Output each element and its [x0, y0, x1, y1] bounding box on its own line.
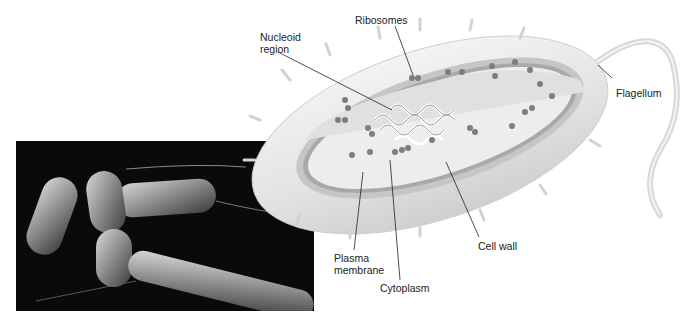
cell-illustration — [0, 0, 694, 326]
label-flagellum: Flagellum — [616, 87, 662, 99]
label-plasma-line1: Plasma — [334, 252, 369, 264]
label-cytoplasm: Cytoplasm — [380, 282, 430, 294]
label-ribosomes: Ribosomes — [355, 14, 408, 26]
label-cell-wall: Cell wall — [478, 240, 517, 252]
label-plasma-line2: membrane — [334, 264, 384, 276]
bacterium-figure: Ribosomes Nucleoid region Flagellum Cell… — [0, 0, 694, 326]
label-nucleoid-line2: region — [260, 43, 289, 55]
label-nucleoid-line1: Nucleoid — [260, 31, 301, 43]
